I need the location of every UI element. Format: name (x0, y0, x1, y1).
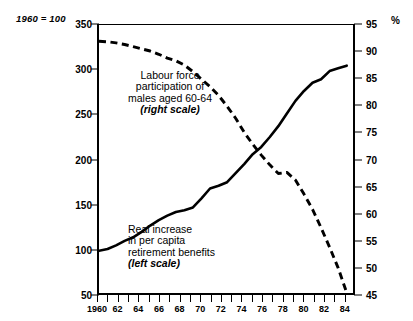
x-axis-tick (241, 295, 242, 302)
left-axis-tick (91, 204, 99, 205)
right-axis-tick-label: 45 (366, 290, 394, 301)
right-axis-tick-label: 90 (366, 46, 394, 57)
x-axis-tick (262, 295, 263, 302)
x-axis-tick (97, 295, 98, 302)
left-axis-tick-label: 50 (58, 290, 92, 301)
x-axis-tick (252, 295, 253, 302)
right-axis-tick-label: 55 (366, 235, 394, 246)
x-axis-tick (200, 295, 201, 302)
right-axis-tick (354, 295, 362, 296)
x-axis-tick-label: 82 (319, 304, 329, 314)
x-axis-tick (118, 295, 119, 302)
annotation-participation: Labour force participation of males aged… (111, 70, 229, 116)
x-axis-tick (283, 295, 284, 302)
annotation-benefits: Real increase in per capita retirement b… (128, 224, 248, 270)
x-axis-tick-label: 66 (154, 304, 164, 314)
right-axis-tick-label: 60 (366, 208, 394, 219)
annotation-lower-scale: (left scale) (128, 258, 248, 269)
annotation-upper-scale: (right scale) (111, 104, 229, 115)
x-axis-tick-label: 78 (278, 304, 288, 314)
x-axis-tick (159, 295, 160, 302)
left-axis-tick (91, 114, 99, 115)
x-axis-tick-label: 1960 (87, 304, 107, 314)
left-axis-tick-label: 250 (58, 109, 92, 120)
right-axis-tick-label: 70 (366, 154, 394, 165)
left-axis-tick (91, 159, 99, 160)
right-axis-tick (354, 213, 362, 214)
x-axis-tick-label: 70 (195, 304, 205, 314)
right-axis-tick-label: 75 (366, 127, 394, 138)
x-axis-tick (138, 295, 139, 302)
x-axis-tick (149, 295, 150, 302)
left-axis-tick (91, 249, 99, 250)
left-axis-tick (91, 24, 99, 25)
right-axis-tick-label: 80 (366, 100, 394, 111)
x-axis-tick (180, 295, 181, 302)
x-axis-tick (211, 295, 212, 302)
x-axis-tick (345, 295, 346, 302)
x-axis-tick (334, 295, 335, 302)
right-axis-tick-label: 95 (366, 19, 394, 30)
left-axis-tick-label: 200 (58, 154, 92, 165)
x-axis-tick (169, 295, 170, 302)
right-axis-tick (354, 78, 362, 79)
x-axis-tick (293, 295, 294, 302)
x-axis-tick-label: 64 (133, 304, 143, 314)
right-axis-tick-label: 65 (366, 181, 394, 192)
x-axis-tick-label: 74 (236, 304, 246, 314)
right-axis-tick-label: 85 (366, 73, 394, 84)
right-axis-tick (354, 24, 362, 25)
right-axis-tick (354, 132, 362, 133)
x-axis-tick-label: 80 (298, 304, 308, 314)
x-axis-tick (231, 295, 232, 302)
x-axis-tick (221, 295, 222, 302)
chart-figure: 1960 = 100 % Labour force participation … (0, 0, 413, 321)
right-axis-tick (354, 105, 362, 106)
x-axis-tick (107, 295, 108, 302)
right-axis-tick (354, 267, 362, 268)
right-axis-tick (354, 186, 362, 187)
x-axis-tick (128, 295, 129, 302)
right-axis-tick (354, 51, 362, 52)
left-axis-tick-label: 100 (58, 244, 92, 255)
x-axis-tick (303, 295, 304, 302)
x-axis-tick (190, 295, 191, 302)
left-axis-tick-label: 350 (58, 19, 92, 30)
x-axis-tick-label: 72 (216, 304, 226, 314)
x-axis-tick-label: 84 (340, 304, 350, 314)
left-axis-tick-label: 150 (58, 199, 92, 210)
left-axis-tick-label: 300 (58, 64, 92, 75)
left-axis-tick (91, 69, 99, 70)
x-axis-tick (272, 295, 273, 302)
right-axis-tick (354, 159, 362, 160)
x-axis-tick (314, 295, 315, 302)
x-axis-tick (324, 295, 325, 302)
right-axis-tick (354, 240, 362, 241)
x-axis-tick-label: 62 (113, 304, 123, 314)
x-axis-tick-label: 76 (257, 304, 267, 314)
right-axis-tick-label: 50 (366, 262, 394, 273)
x-axis-tick-label: 68 (175, 304, 185, 314)
